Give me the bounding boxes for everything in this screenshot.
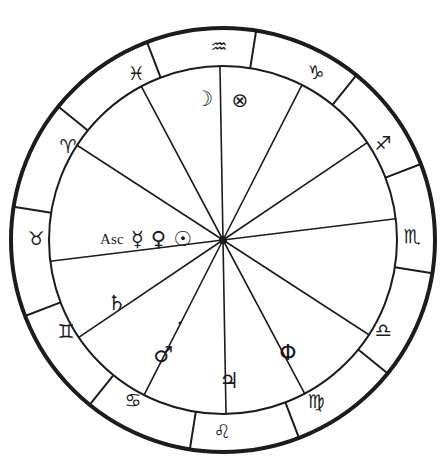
planet-glyph-jupiter[interactable]: ♃ — [219, 370, 239, 392]
sign-glyph-pisces[interactable]: ♓ — [127, 64, 144, 83]
sign-glyph-taurus[interactable]: ♉ — [27, 229, 44, 248]
sign-glyph-gemini[interactable]: ♊ — [57, 322, 74, 341]
sun[interactable]: ☉ — [173, 229, 192, 250]
sign-glyph-aquarius[interactable]: ♒ — [210, 37, 227, 56]
sign-glyph-scorpio[interactable]: ♏ — [403, 227, 420, 246]
sign-glyph-aries[interactable]: ♈ — [59, 137, 76, 156]
sign-glyph-sagittarius[interactable]: ♐ — [374, 134, 391, 153]
ascendant-label[interactable]: Asc — [100, 232, 124, 247]
planet-glyph-moon[interactable]: ☽ — [195, 89, 214, 110]
planet-glyph-mars[interactable]: ♂ — [153, 344, 173, 366]
chart-center-hub — [219, 236, 227, 244]
sign-glyph-virgo[interactable]: ♍ — [307, 392, 324, 411]
venus[interactable]: ♀ — [151, 229, 166, 250]
sign-glyph-cancer[interactable]: ♋ — [124, 391, 141, 410]
planet-glyph-saturn[interactable]: ♄ — [108, 293, 127, 314]
sign-glyph-leo[interactable]: ♌ — [213, 422, 230, 441]
sign-glyph-capricorn[interactable]: ♑ — [307, 63, 324, 82]
planet-glyph-part-of-fortune[interactable]: ⊗ — [232, 90, 249, 110]
mercury[interactable]: ☿ — [131, 229, 144, 250]
astrology-chart-wheel: ♉♈♓♒♑♐♏♎♍♌♋♊☽⊗♄♂♃ΦAsc☿♀☉ — [0, 0, 447, 468]
wheel-geometry — [0, 0, 447, 468]
sign-glyph-libra[interactable]: ♎ — [374, 321, 391, 340]
ascendant-group: Asc☿♀☉ — [100, 229, 192, 250]
planet-glyph-phi-point[interactable]: Φ — [279, 342, 296, 364]
